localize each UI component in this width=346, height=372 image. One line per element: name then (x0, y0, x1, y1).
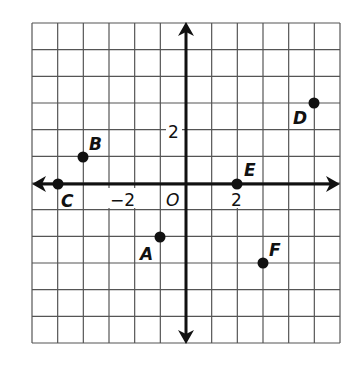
point-label-e: E (244, 160, 256, 180)
y-tick-2: 2 (168, 122, 179, 142)
point-b: B (78, 134, 102, 163)
axes (32, 22, 340, 344)
point-label-c: C (61, 191, 74, 211)
tick-labels: −2 O 2 2 (108, 120, 245, 210)
point-label-f: F (269, 240, 281, 260)
coordinate-plane: −2 O 2 2 A B C D E F (0, 0, 346, 372)
x-tick-neg2: −2 (110, 190, 135, 210)
point-label-a: A (138, 244, 153, 264)
point-d: D (293, 98, 320, 129)
x-tick-2: 2 (231, 190, 242, 210)
point-label-d: D (293, 108, 307, 128)
point-label-b: B (89, 134, 102, 154)
origin-label: O (166, 190, 179, 210)
point-f: F (258, 240, 282, 269)
